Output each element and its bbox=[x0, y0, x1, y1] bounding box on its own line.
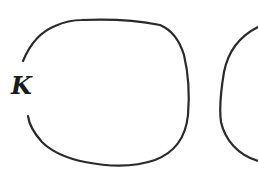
label-k: K bbox=[11, 74, 32, 98]
diagram-canvas bbox=[0, 0, 258, 172]
partial-right-curve bbox=[220, 27, 258, 161]
open-loop-curve bbox=[23, 20, 189, 166]
